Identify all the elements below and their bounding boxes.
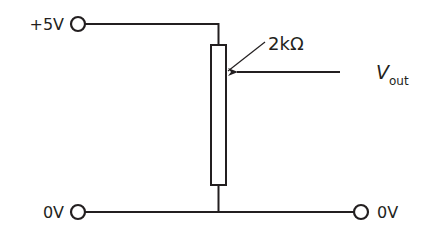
output-voltage-subscript: out [389,74,409,88]
resistor-body [211,45,226,185]
top-wire [85,23,219,45]
bottom-wire [85,185,354,212]
terminal-bottom-left [71,205,85,219]
terminal-bottom-right [354,205,368,219]
resistor-label-leader [228,42,265,71]
terminal-label-0v-left: 0V [43,203,64,222]
potential-divider-diagram: +5V 0V 0V 2kΩ V out [0,0,422,231]
terminal-label-plus5v: +5V [29,15,64,34]
resistor-value-label: 2kΩ [268,33,304,54]
terminal-label-0v-right: 0V [377,203,398,222]
terminal-top-left [71,17,85,31]
